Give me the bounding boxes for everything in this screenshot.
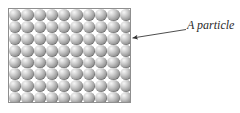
particle <box>9 33 21 45</box>
particle <box>9 80 21 92</box>
particle <box>95 9 107 21</box>
particle <box>21 92 33 103</box>
particle <box>21 57 33 69</box>
particle <box>107 80 119 92</box>
particle <box>83 57 95 69</box>
particle <box>46 57 58 69</box>
particle <box>58 80 70 92</box>
particle <box>83 33 95 45</box>
particle <box>58 57 70 69</box>
particle <box>58 45 70 57</box>
particle <box>21 21 33 33</box>
particle <box>120 80 131 92</box>
particle <box>58 21 70 33</box>
particle-grid <box>9 9 131 103</box>
particle <box>107 33 119 45</box>
particle <box>46 80 58 92</box>
particle <box>70 21 82 33</box>
particle <box>34 9 46 21</box>
particle <box>83 21 95 33</box>
particle <box>34 57 46 69</box>
particle <box>21 45 33 57</box>
callout-label-a-particle: A particle <box>187 18 234 32</box>
particle <box>95 57 107 69</box>
particle <box>21 68 33 80</box>
particle <box>34 80 46 92</box>
particle <box>120 45 131 57</box>
particle <box>107 45 119 57</box>
figure-canvas: A particle <box>0 0 240 113</box>
particle <box>46 68 58 80</box>
particle <box>95 68 107 80</box>
leader-line-stroke <box>133 30 187 39</box>
particle-container <box>8 8 131 103</box>
particle <box>107 21 119 33</box>
particle <box>58 9 70 21</box>
particle <box>107 9 119 21</box>
particle <box>34 45 46 57</box>
particle <box>34 33 46 45</box>
particle <box>107 68 119 80</box>
particle <box>83 9 95 21</box>
particle <box>21 9 33 21</box>
particle <box>120 92 131 103</box>
particle <box>70 9 82 21</box>
particle <box>70 45 82 57</box>
particle <box>46 45 58 57</box>
particle <box>58 92 70 103</box>
particle <box>95 80 107 92</box>
particle <box>120 9 131 21</box>
particle <box>9 21 21 33</box>
particle <box>95 33 107 45</box>
particle <box>58 68 70 80</box>
particle <box>120 68 131 80</box>
particle <box>34 92 46 103</box>
particle <box>120 33 131 45</box>
particle <box>21 80 33 92</box>
particle <box>83 68 95 80</box>
particle <box>34 21 46 33</box>
particle <box>34 68 46 80</box>
particle <box>70 92 82 103</box>
particle <box>107 57 119 69</box>
particle <box>70 57 82 69</box>
particle <box>120 57 131 69</box>
particle <box>95 92 107 103</box>
particle <box>83 45 95 57</box>
particle <box>95 21 107 33</box>
particle <box>107 92 119 103</box>
particle <box>9 92 21 103</box>
particle <box>83 92 95 103</box>
particle <box>9 45 21 57</box>
particle <box>95 45 107 57</box>
particle <box>70 68 82 80</box>
particle <box>9 9 21 21</box>
particle <box>70 33 82 45</box>
particle <box>46 9 58 21</box>
particle <box>21 33 33 45</box>
particle <box>46 33 58 45</box>
particle <box>9 57 21 69</box>
particle <box>83 80 95 92</box>
particle <box>120 21 131 33</box>
particle <box>58 33 70 45</box>
particle <box>9 68 21 80</box>
particle <box>46 21 58 33</box>
particle <box>46 92 58 103</box>
particle <box>70 80 82 92</box>
